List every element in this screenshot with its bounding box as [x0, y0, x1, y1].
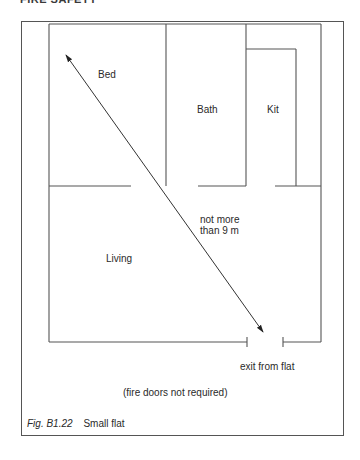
room-label-kitchen: Kit	[267, 104, 279, 115]
room-label-bath: Bath	[197, 104, 218, 115]
exit-door-jambs	[247, 337, 283, 347]
travel-distance-line-2: than 9 m	[200, 225, 239, 236]
kitchen-inner-wall	[246, 49, 296, 186]
travel-distance-arrow	[66, 55, 263, 332]
room-label-living: Living	[106, 253, 132, 264]
figure-caption: Fig. B1.22 Small flat	[27, 418, 125, 429]
travel-distance-note: not more than 9 m	[200, 214, 239, 236]
fire-doors-note: (fire doors not required)	[123, 387, 228, 398]
travel-distance-line-1: not more	[200, 214, 239, 225]
figure-title: Small flat	[83, 418, 124, 429]
flat-outer-wall	[49, 24, 321, 342]
room-label-bed: Bed	[98, 69, 116, 80]
figure-number: Fig. B1.22	[27, 418, 73, 429]
exit-label: exit from flat	[240, 361, 294, 372]
